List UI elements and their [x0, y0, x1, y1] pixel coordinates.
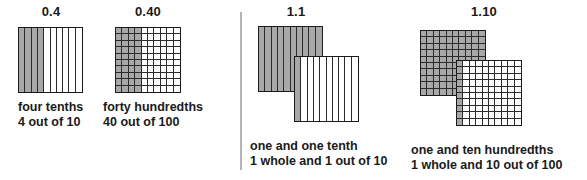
decimal-models-figure: 0.4 four tenths 4 out of 10 0.40 forty h… — [0, 0, 587, 180]
caption-line-2: 40 out of 100 — [103, 115, 203, 130]
grid-cell — [352, 57, 358, 121]
model-one-and-one-tenth: 1.1 — [254, 4, 384, 134]
caption-line-1: forty hundredths — [103, 100, 203, 115]
caption-four-tenths: four tenths 4 out of 10 — [18, 100, 83, 130]
model-one-and-ten-hundredths: 1.10 — [420, 4, 560, 134]
model-heading: 0.4 — [8, 4, 94, 19]
caption-one-and-one-tenth: one and one tenth 1 whole and 1 out of 1… — [250, 139, 388, 169]
caption-one-and-ten-hundredths: one and ten hundredths 1 whole and 10 ou… — [411, 143, 562, 173]
caption-forty-hundredths: forty hundredths 40 out of 100 — [103, 100, 203, 130]
model-heading: 1.1 — [258, 4, 334, 19]
model-forty-hundredths: 0.40 — [105, 4, 191, 100]
grid-cell — [174, 86, 180, 92]
caption-line-2: 4 out of 10 — [18, 115, 83, 130]
hundredths-grid-forty-hundredths — [115, 27, 181, 93]
model-heading: 0.40 — [105, 4, 191, 19]
grid-cell — [76, 28, 82, 92]
caption-line-1: one and one tenth — [250, 139, 388, 154]
model-four-tenths: 0.4 — [8, 4, 94, 100]
caption-line-1: four tenths — [18, 100, 83, 115]
section-divider — [240, 12, 242, 170]
hundredths-grid-ten-hundredths — [456, 60, 522, 126]
caption-line-2: 1 whole and 1 out of 10 — [250, 154, 388, 169]
caption-line-1: one and ten hundredths — [411, 143, 562, 158]
caption-line-2: 1 whole and 10 out of 100 — [411, 158, 562, 173]
tenths-grid-one-tenth — [294, 56, 359, 122]
grid-cell — [515, 119, 521, 125]
tenths-grid-four-tenths — [18, 27, 83, 93]
model-heading: 1.10 — [444, 4, 524, 19]
